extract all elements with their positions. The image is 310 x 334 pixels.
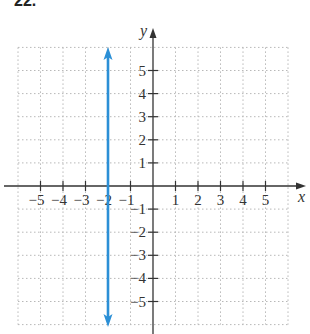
x-tick-label: −4 — [51, 192, 67, 208]
y-tick-label: 2 — [139, 132, 147, 148]
x-axis-label: x — [297, 188, 305, 205]
y-tick-label: 3 — [139, 109, 147, 125]
x-tick-label: 2 — [194, 192, 202, 208]
x-tick-label: 4 — [239, 192, 247, 208]
x-tick-label: 1 — [172, 192, 180, 208]
y-tick-label: 1 — [139, 155, 147, 171]
y-tick-label: −3 — [130, 247, 146, 263]
y-tick-label: 5 — [139, 63, 147, 79]
y-axis-arrow-icon — [150, 28, 157, 38]
y-tick-label: −1 — [130, 201, 146, 217]
y-tick-label: −5 — [130, 294, 146, 310]
axes: xy — [4, 22, 306, 334]
coordinate-plane: xy −5−4−3−2−11234554321−1−2−3−4−5 — [0, 0, 310, 334]
x-tick-label: −2 — [96, 192, 112, 208]
y-axis-label: y — [138, 22, 148, 40]
x-tick-label: 3 — [217, 192, 225, 208]
y-tick-label: −4 — [130, 270, 146, 286]
x-tick-label: −3 — [74, 192, 90, 208]
y-tick-label: −2 — [130, 224, 146, 240]
plotted-line — [104, 47, 113, 327]
x-tick-label: −5 — [29, 192, 45, 208]
x-tick-label: 5 — [262, 192, 270, 208]
y-tick-label: 4 — [139, 86, 147, 102]
